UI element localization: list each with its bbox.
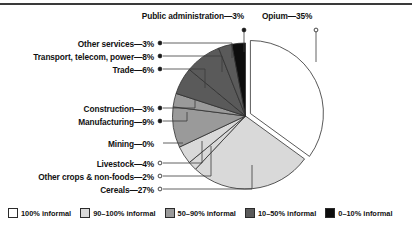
legend-item[interactable]: 50–90% informal	[165, 208, 236, 218]
legend-swatch	[8, 208, 18, 218]
leader-marker-filled	[158, 119, 162, 123]
slice-label-other-services: Other services—3%	[78, 40, 154, 49]
slice-label-manufacturing: Manufacturing—9%	[78, 118, 154, 127]
slice-label-transport-telecom-power: Transport, telecom, power—8%	[33, 53, 154, 62]
slice-label-construction: Construction—3%	[84, 105, 154, 114]
leader-marker-filled	[158, 41, 162, 45]
slice-label-opium: Opium—35%	[262, 12, 312, 21]
legend-label: 100% informal	[21, 209, 71, 218]
legend-label: 10–50% informal	[258, 209, 316, 218]
leader-marker-filled	[158, 54, 162, 58]
legend-item[interactable]: 10–50% informal	[245, 208, 316, 218]
slice-label-livestock: Livestock—4%	[97, 160, 154, 169]
pie-slices-group	[172, 41, 323, 189]
leader-marker-open	[158, 161, 162, 165]
slice-label-trade: Trade—6%	[112, 66, 154, 75]
leader-marker-open	[158, 174, 162, 178]
leader-marker-filled	[158, 67, 162, 71]
slice-label-other-crops-non-foods: Other crops & non-foods—2%	[38, 173, 154, 182]
legend-label: 90–100% informal	[93, 209, 155, 218]
leader-marker-filled	[242, 28, 246, 32]
legend-item[interactable]: 90–100% informal	[80, 208, 155, 218]
legend-item[interactable]: 0–10% informal	[325, 208, 392, 218]
legend-swatch	[325, 208, 335, 218]
legend-label: 50–90% informal	[178, 209, 236, 218]
legend-swatch	[80, 208, 90, 218]
pie-chart-canvas	[0, 0, 412, 240]
leader-marker-open	[158, 187, 162, 191]
pie-chart-figure: Public administration—3% Opium—35% Other…	[0, 0, 412, 240]
leader-marker-filled	[158, 106, 162, 110]
slice-label-public-administration: Public administration—3%	[142, 12, 244, 21]
slice-label-cereals: Cereals—27%	[100, 186, 154, 195]
slice-label-mining: Mining—0%	[108, 140, 154, 149]
leader-marker-open	[314, 28, 318, 32]
chart-legend: 100% informal90–100% informal50–90% info…	[8, 208, 393, 218]
legend-swatch	[165, 208, 175, 218]
legend-swatch	[245, 208, 255, 218]
legend-item[interactable]: 100% informal	[8, 208, 71, 218]
legend-label: 0–10% informal	[338, 209, 392, 218]
